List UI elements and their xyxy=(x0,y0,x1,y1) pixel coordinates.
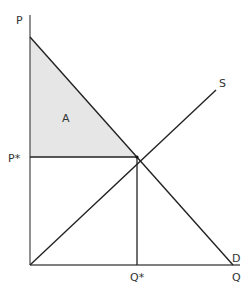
demand-label: D xyxy=(232,252,240,265)
y-axis-label: P xyxy=(16,14,23,27)
supply-label: S xyxy=(219,77,226,90)
x-axis-label: Q xyxy=(232,271,241,284)
equilibrium-quantity-label: Q* xyxy=(130,271,145,284)
equilibrium-point xyxy=(135,155,138,158)
supply-demand-diagram: P Q S D P* Q* A xyxy=(0,0,251,298)
equilibrium-price-label: P* xyxy=(8,152,21,165)
consumer-surplus-label: A xyxy=(62,112,70,125)
